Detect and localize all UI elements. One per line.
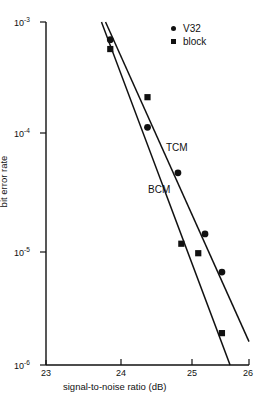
fit-lines (101, 22, 249, 365)
legend-label: V32 (183, 23, 201, 34)
y-tick-label: 10-4 (14, 127, 30, 139)
y-tick-label: 10-5 (14, 246, 30, 258)
y-tick-exponent: -6 (24, 359, 30, 366)
figure-caption (0, 400, 268, 412)
legend-item-v32: V32 (168, 22, 206, 35)
x-tick-label: 24 (116, 368, 126, 378)
x-tick-label: 26 (243, 368, 253, 378)
chart-figure: 10-3 10-4 10-5 10-6 23 24 25 26 signal-t… (0, 0, 268, 412)
data-point-circle (144, 124, 151, 131)
y-axis-ticks (40, 22, 46, 365)
fit-line-tcm (106, 22, 249, 342)
data-point-circle (202, 231, 209, 238)
chart-legend: V32 block (168, 22, 206, 48)
y-tick-label: 10-6 (14, 359, 30, 371)
data-point-square (195, 250, 201, 256)
x-axis-title: signal-to-noise ratio (dB) (63, 381, 167, 392)
data-point-circle (219, 269, 226, 276)
legend-label: block (183, 36, 206, 47)
x-axis-ticks (46, 359, 249, 365)
legend-item-block: block (168, 35, 206, 48)
y-tick-exponent: -3 (24, 16, 30, 23)
chart-plot-area (0, 0, 268, 412)
data-point-square (219, 330, 225, 336)
y-tick-exponent: -5 (24, 246, 30, 253)
circle-marker-icon (168, 26, 179, 31)
data-point-square (107, 46, 113, 52)
annotation-bcm: BCM (148, 184, 170, 195)
annotation-tcm: TCM (166, 142, 188, 153)
y-axis-title: bit error rate (0, 156, 9, 208)
data-point-square (178, 241, 184, 247)
data-point-square (144, 94, 150, 100)
data-point-circle (107, 36, 114, 43)
y-tick-exponent: -4 (24, 127, 30, 134)
x-tick-label: 23 (41, 368, 51, 378)
y-tick-label: 10-3 (14, 16, 30, 28)
data-point-circle (175, 169, 182, 176)
x-tick-label: 25 (187, 368, 197, 378)
square-marker-icon (168, 39, 179, 44)
